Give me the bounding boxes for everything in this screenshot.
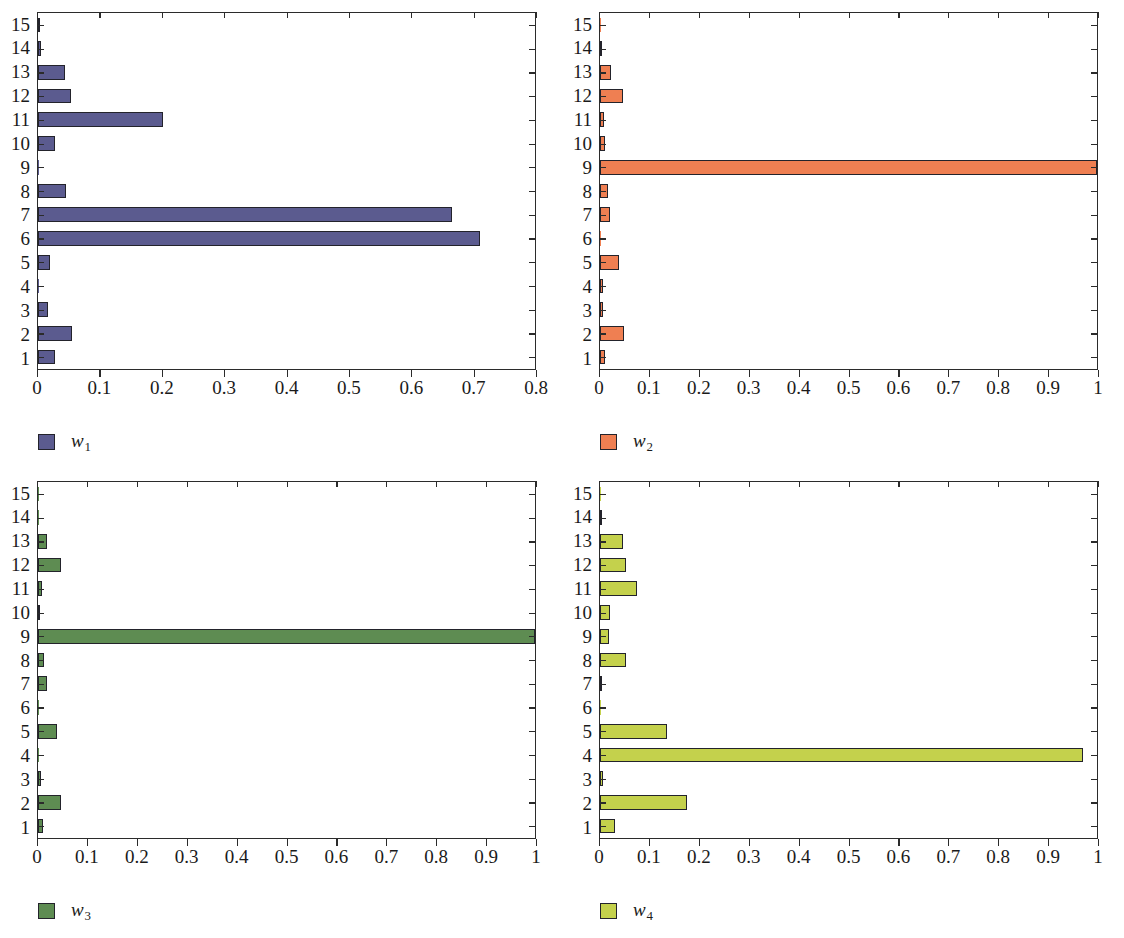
x-axis-tick-mark-top — [1048, 481, 1049, 487]
y-axis-tick-mark — [600, 731, 606, 732]
y-axis-tick-label: 3 — [0, 767, 33, 791]
x-axis-tick-label: 0.7 — [936, 378, 960, 397]
x-axis-tick-label: 0.9 — [1036, 378, 1060, 397]
x-axis-tick-label: 0.2 — [687, 378, 711, 397]
bar-row — [600, 672, 1097, 696]
x-axis-tick-mark — [436, 839, 437, 846]
x-axis-tick-mark-top — [799, 12, 800, 18]
bar-row — [38, 203, 535, 227]
y-axis-tick-label: 14 — [562, 505, 595, 529]
x-axis-tick-mark-top — [87, 481, 88, 487]
bar-row — [38, 743, 535, 767]
x-axis-tick-mark — [37, 370, 38, 377]
bar-row — [600, 345, 1097, 369]
y-axis-tick-mark-right — [1091, 707, 1097, 708]
y-axis-tick-labels: 123456789101112131415 — [562, 481, 595, 839]
y-axis-tick-mark — [600, 310, 606, 311]
legend-color-swatch — [38, 903, 55, 919]
y-axis-tick-mark — [600, 167, 606, 168]
bar-row — [600, 624, 1097, 648]
x-axis-tick-mark — [137, 839, 138, 846]
bar-rows — [38, 482, 535, 838]
bar-row — [38, 719, 535, 743]
y-axis-tick-mark — [600, 518, 606, 519]
x-axis-tick-labels: 00.10.20.30.40.50.60.70.80.91 — [37, 847, 536, 873]
y-axis-tick-mark — [38, 144, 44, 145]
plot-area — [599, 12, 1098, 370]
y-axis-tick-mark — [600, 215, 606, 216]
y-axis-tick-label: 15 — [562, 12, 595, 36]
y-axis-tick-label: 12 — [562, 553, 595, 577]
y-axis-tick-mark — [38, 565, 44, 566]
bar-row — [600, 227, 1097, 251]
y-axis-tick-mark — [38, 826, 44, 827]
bar-row — [38, 529, 535, 553]
y-axis-tick-labels: 123456789101112131415 — [0, 481, 33, 839]
y-axis-tick-label: 13 — [562, 529, 595, 553]
y-axis-tick-mark — [38, 802, 44, 803]
legend-label-base: w — [71, 430, 84, 451]
y-axis-tick-mark-right — [529, 660, 535, 661]
y-axis-tick-mark-right — [1091, 72, 1097, 73]
y-axis-tick-label: 14 — [0, 36, 33, 60]
y-axis-tick-mark-right — [529, 541, 535, 542]
x-axis-tick-mark-top — [948, 481, 949, 487]
y-axis-tick-label: 5 — [0, 720, 33, 744]
y-axis-tick-mark-right — [529, 613, 535, 614]
bar — [38, 112, 163, 127]
y-axis-tick-mark-right — [1091, 144, 1097, 145]
y-axis-tick-mark-right — [529, 238, 535, 239]
y-axis-tick-mark — [38, 310, 44, 311]
bar-row — [600, 577, 1097, 601]
x-axis-tick-mark-top — [998, 12, 999, 18]
y-axis-tick-mark-right — [1091, 238, 1097, 239]
y-axis-tick-label: 3 — [562, 298, 595, 322]
bar-row — [38, 179, 535, 203]
x-axis-tick-label: 0 — [32, 378, 42, 397]
y-axis-tick-mark — [38, 660, 44, 661]
x-axis-tick-mark — [649, 839, 650, 846]
bar-row — [600, 719, 1097, 743]
y-axis-tick-mark — [600, 802, 606, 803]
y-axis-tick-mark — [600, 707, 606, 708]
x-axis-tick-label: 0.3 — [175, 847, 199, 866]
x-axis-tick-mark — [599, 839, 600, 846]
y-axis-tick-mark-right — [1091, 802, 1097, 803]
chart-panel-w4: 12345678910111213141500.10.20.30.40.50.6… — [562, 469, 1124, 938]
y-axis-tick-label: 11 — [562, 577, 595, 601]
bar-row — [600, 767, 1097, 791]
bar-row — [600, 203, 1097, 227]
y-axis-tick-mark-right — [529, 72, 535, 73]
y-axis-tick-mark — [38, 120, 44, 121]
bar-rows — [600, 482, 1097, 838]
y-axis-tick-mark — [600, 72, 606, 73]
y-axis-tick-label: 10 — [0, 600, 33, 624]
bar-row — [600, 648, 1097, 672]
y-axis-tick-mark — [600, 333, 606, 334]
y-axis-tick-mark-right — [529, 167, 535, 168]
x-axis-tick-mark — [849, 839, 850, 846]
legend-label: w4 — [633, 899, 653, 924]
bar-row — [38, 227, 535, 251]
y-axis-tick-mark-right — [529, 518, 535, 519]
x-axis-tick-labels: 00.10.20.30.40.50.60.70.80.91 — [599, 847, 1098, 873]
x-axis-tick-mark — [486, 839, 487, 846]
x-axis-tick-mark — [799, 370, 800, 377]
legend: w4 — [600, 899, 653, 924]
y-axis-tick-mark — [38, 167, 44, 168]
legend: w2 — [600, 430, 653, 455]
x-axis-tick-label: 0.3 — [212, 378, 236, 397]
y-axis-tick-mark-right — [1091, 518, 1097, 519]
x-axis-tick-label: 0.5 — [837, 378, 861, 397]
bar-row — [600, 814, 1097, 838]
y-axis-tick-mark — [600, 262, 606, 263]
legend-label: w2 — [633, 430, 653, 455]
y-axis-tick-label: 7 — [0, 672, 33, 696]
bar-row — [38, 60, 535, 84]
bar-row — [600, 250, 1097, 274]
bar-row — [38, 696, 535, 720]
plot-area — [37, 481, 536, 839]
y-axis-tick-label: 9 — [0, 624, 33, 648]
x-axis-tick-mark — [898, 370, 899, 377]
x-axis-tick-mark — [1048, 370, 1049, 377]
